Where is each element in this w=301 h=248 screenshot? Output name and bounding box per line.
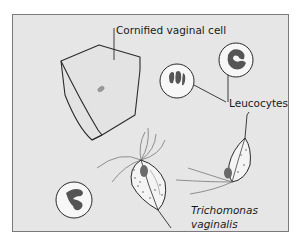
label-cornified-vaginal-cell: Cornified vaginal cell xyxy=(116,25,226,36)
leucocyte-bottom-left xyxy=(56,182,92,218)
leader-line-trichomonas xyxy=(247,112,249,115)
label-leucocytes: Leucocytes xyxy=(229,98,288,109)
leader-lines-leucocytes xyxy=(194,75,228,102)
label-trichomonas-line2: vaginalis xyxy=(191,219,238,230)
trichomonas-large xyxy=(97,128,171,228)
leucocyte-top-left xyxy=(160,64,194,98)
label-trichomonas-line1: Trichomonas xyxy=(191,205,258,216)
trichomonas-small xyxy=(176,115,250,194)
cornified-vaginal-cell xyxy=(61,45,140,140)
leucocyte-top-right xyxy=(219,43,253,77)
